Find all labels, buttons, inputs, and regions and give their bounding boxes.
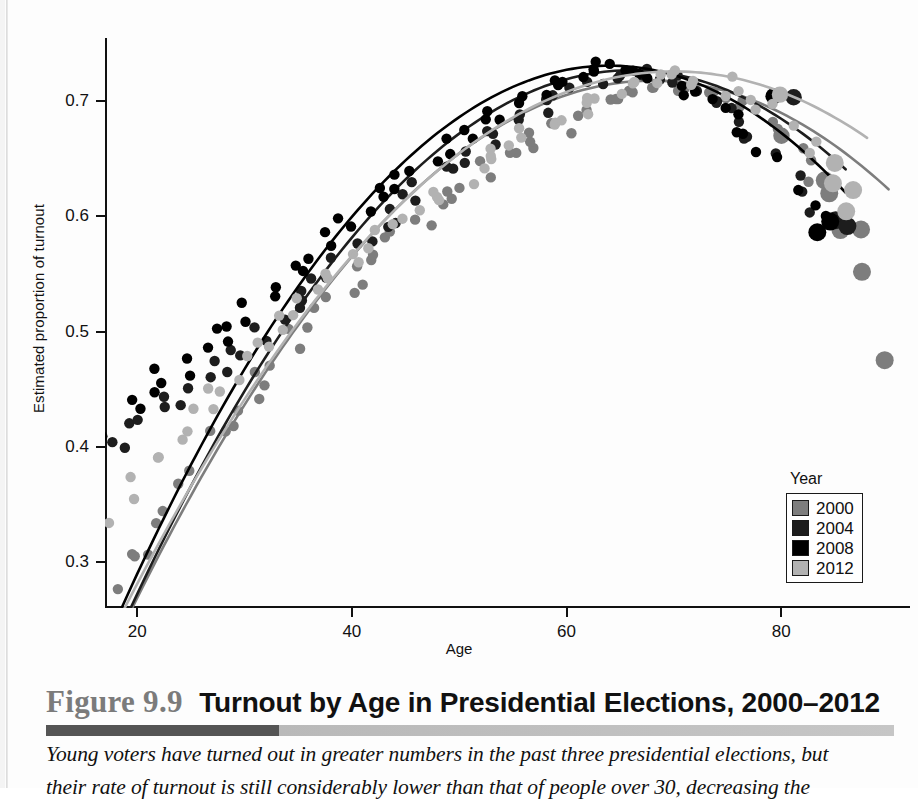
data-point (433, 156, 443, 166)
data-point (617, 89, 627, 99)
y-tick-mark (96, 100, 105, 102)
data-point (278, 325, 288, 335)
legend-item-2000[interactable]: 2000 (792, 498, 854, 518)
data-point (642, 73, 652, 83)
data-point (270, 291, 280, 301)
x-tick-mark (136, 608, 138, 617)
data-point (707, 94, 717, 104)
data-point (113, 584, 123, 594)
chart-figure: Estimated proportion of turnout 0.30.40.… (0, 0, 918, 680)
data-point (772, 152, 782, 162)
data-point (221, 321, 231, 331)
data-point (410, 214, 420, 224)
data-point (185, 370, 195, 380)
data-point (149, 387, 159, 397)
data-point (397, 213, 407, 223)
legend-title: Year (790, 470, 863, 488)
data-point (810, 200, 820, 210)
y-tick-mark (96, 215, 105, 217)
data-point (844, 181, 862, 199)
data-point (105, 431, 108, 441)
data-point (357, 279, 367, 289)
data-point (853, 263, 871, 281)
data-point (789, 120, 799, 130)
data-point (750, 104, 760, 114)
data-point (129, 494, 139, 504)
legend-label: 2004 (816, 520, 854, 537)
data-point (302, 322, 312, 332)
data-point (566, 128, 576, 138)
data-point (793, 185, 803, 195)
legend-item-2008[interactable]: 2008 (792, 538, 854, 558)
caption-line-2: their rate of turnout is still considera… (46, 775, 810, 800)
data-point (175, 400, 185, 410)
figure-caption: Figure 9.9 Turnout by Age in Presidentia… (0, 680, 918, 788)
data-point (679, 90, 689, 100)
data-point (249, 322, 259, 332)
y-tick-label: 0.3 (65, 552, 89, 572)
data-point (105, 518, 114, 528)
data-point (149, 364, 159, 374)
data-point (182, 426, 192, 436)
series-2004 (107, 64, 856, 608)
data-point (426, 220, 436, 230)
data-point (629, 77, 639, 87)
data-point (120, 443, 130, 453)
data-point (274, 310, 284, 320)
x-tick-label: 40 (342, 622, 361, 642)
y-tick-mark (96, 561, 105, 563)
data-point (135, 404, 145, 414)
data-point (183, 383, 193, 393)
data-point (388, 219, 398, 229)
data-point (589, 66, 599, 76)
data-point (130, 551, 140, 561)
data-point (583, 109, 593, 119)
data-point (209, 356, 219, 366)
data-point (333, 213, 343, 223)
data-point (107, 437, 117, 447)
data-point (159, 392, 169, 402)
data-point (479, 163, 489, 173)
data-point (223, 336, 233, 346)
data-point (363, 243, 373, 253)
caption-heading: Figure 9.9 Turnout by Age in Presidentia… (46, 684, 880, 720)
legend-label: 2008 (816, 540, 854, 557)
data-point (733, 109, 743, 119)
data-point (460, 158, 470, 168)
data-point (215, 386, 225, 396)
data-point (182, 353, 192, 363)
data-point (160, 402, 170, 412)
data-point (677, 81, 687, 91)
series-2012 (105, 65, 867, 608)
x-tick-label: 60 (557, 622, 576, 642)
data-point (222, 367, 232, 377)
data-point (486, 172, 496, 182)
data-point (240, 317, 250, 327)
data-point (320, 268, 330, 278)
legend-item-2004[interactable]: 2004 (792, 518, 854, 538)
data-point (482, 106, 492, 116)
legend-swatch-2004 (792, 520, 809, 536)
y-tick-label: 0.5 (65, 322, 89, 342)
data-point (320, 227, 330, 237)
legend-box: 2000200420082012 (786, 493, 863, 583)
data-point (556, 115, 566, 125)
legend-item-2012[interactable]: 2012 (792, 558, 854, 578)
data-point (242, 351, 252, 361)
data-point (441, 133, 451, 143)
data-point (366, 206, 376, 216)
data-point (203, 383, 213, 393)
data-point (837, 202, 855, 220)
data-point (733, 86, 743, 96)
legend-label: 2000 (816, 500, 854, 517)
data-point (454, 183, 464, 193)
data-point (271, 282, 281, 292)
data-point (589, 93, 599, 103)
legend-swatch-2012 (792, 560, 809, 576)
data-point (721, 103, 731, 113)
data-point (557, 77, 567, 87)
y-tick-label: 0.6 (65, 206, 89, 226)
series-2008 (105, 56, 846, 608)
data-point (254, 394, 264, 404)
